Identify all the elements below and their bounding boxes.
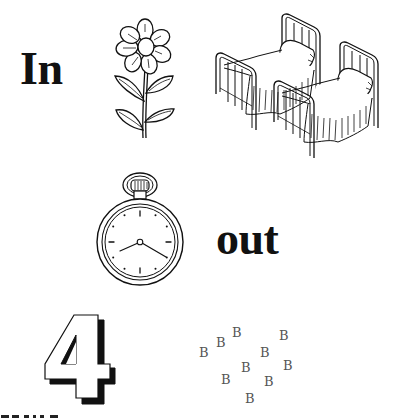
- letter-b: B: [232, 325, 242, 340]
- letter-b: B: [245, 391, 255, 406]
- twin-beds-icon: [210, 8, 390, 158]
- letter-b: B: [260, 345, 270, 360]
- letter-b: B: [264, 374, 274, 389]
- letter-b: B: [283, 358, 293, 373]
- letter-b: B: [216, 335, 226, 350]
- flower-icon: [105, 18, 185, 143]
- word-in: In: [20, 46, 62, 92]
- digit-four-icon: [42, 312, 124, 410]
- pocket-watch-icon: [94, 168, 186, 288]
- letter-b: B: [199, 345, 209, 360]
- clipped-footer-text: [0, 413, 60, 420]
- word-out: out: [216, 216, 278, 262]
- letter-b: B: [221, 372, 231, 387]
- letter-b: B: [241, 360, 251, 375]
- rebus-page: In: [0, 0, 394, 420]
- letter-b: B: [279, 328, 289, 343]
- letter-b-cluster: B B B B B B B B B B: [190, 318, 310, 413]
